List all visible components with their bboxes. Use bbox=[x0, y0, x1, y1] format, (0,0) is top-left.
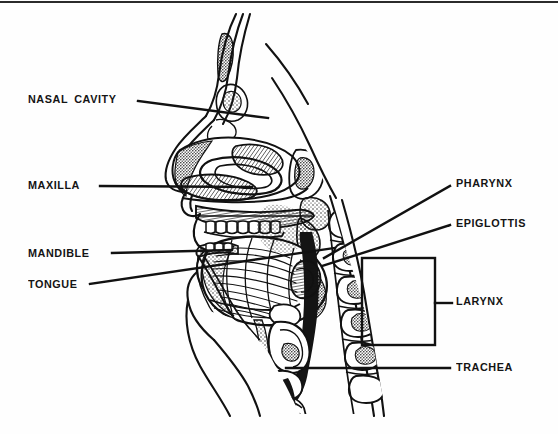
leader-maxilla bbox=[100, 186, 252, 187]
label-larynx: LARYNX bbox=[456, 296, 503, 308]
leader-larynx-bracket bbox=[362, 258, 452, 345]
anatomy-figure: NASAL CAVITY MAXILLA MANDIBLE TONGUE PHA… bbox=[0, 0, 558, 434]
label-epiglottis: EPIGLOTTIS bbox=[456, 218, 526, 230]
leader-nasal-cavity bbox=[138, 101, 268, 118]
leader-pharynx bbox=[324, 186, 450, 258]
label-nasal-cavity: NASAL CAVITY bbox=[28, 94, 116, 106]
label-mandible: MANDIBLE bbox=[28, 248, 90, 260]
label-trachea: TRACHEA bbox=[456, 362, 513, 374]
label-pharynx: PHARYNX bbox=[456, 178, 512, 190]
label-tongue: TONGUE bbox=[28, 279, 77, 291]
label-maxilla: MAXILLA bbox=[28, 180, 80, 192]
